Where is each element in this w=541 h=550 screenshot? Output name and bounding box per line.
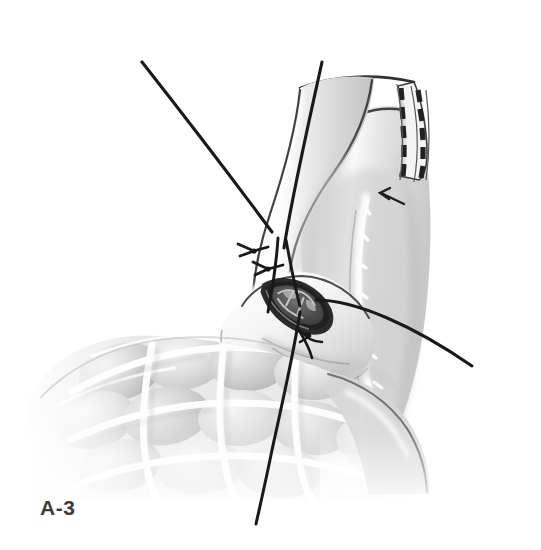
paper-grain-overlay bbox=[0, 0, 541, 550]
figure-container: A-3 bbox=[0, 0, 541, 550]
figure-label: A-3 bbox=[40, 497, 75, 518]
surgical-illustration bbox=[0, 0, 541, 550]
